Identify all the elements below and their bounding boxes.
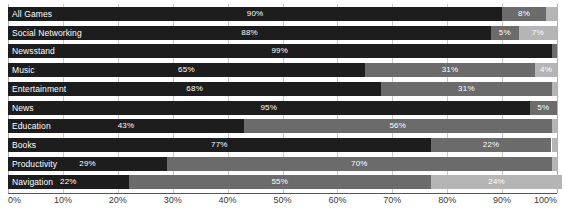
bar-segment: 68%Entertainment [8,82,381,96]
segment-value-label: 24% [488,178,505,186]
segment-value-label: 56% [389,122,406,130]
segment-value-label: 5% [537,104,549,112]
bar-segment: 4% [535,63,557,77]
category-label: News [12,103,34,112]
bar-row: 65%Music31%4% [8,63,557,77]
x-tick-label: 70% [383,196,401,205]
segment-value-label: 8% [518,10,530,18]
category-label: Music [12,66,35,75]
bar-track: 29%Productivity70% [8,157,557,171]
segment-value-label: 31% [442,66,459,74]
category-label: Newsstand [12,47,55,56]
bar-segment: 77%Books [8,138,431,152]
bar-track: 88%Social Networking5%7% [8,26,557,40]
bar-segment [546,7,557,21]
bar-row: 99%Newsstand [8,44,557,58]
bar-segment: 8% [502,7,546,21]
bar-track: 95%News5% [8,101,557,115]
bar-segment [552,44,557,58]
bar-segment [552,138,557,152]
x-tick-label: 20% [109,196,127,205]
bar-segment [552,82,557,96]
category-label: Navigation [12,178,53,187]
segment-value-label: 90% [247,10,264,18]
bar-track: 99%Newsstand [8,44,557,58]
bar-segment: 88%Social Networking [8,26,491,40]
segment-value-label: 55% [271,178,288,186]
bar-segment [552,119,557,133]
bar-track: 90%All Games8% [8,7,557,21]
bar-segment: 90%All Games [8,7,502,21]
bar-segment: 31% [365,63,535,77]
segment-value-label: 95% [260,104,277,112]
segment-value-label: 5% [499,29,511,37]
segment-value-label: 31% [458,85,475,93]
bar-track: 77%Books22% [8,138,557,152]
bar-row: 88%Social Networking5%7% [8,26,557,40]
segment-value-label: 99% [271,47,288,55]
category-label: Books [12,141,36,150]
gridline [557,4,558,193]
bar-row: 95%News5% [8,101,557,115]
bar-row: 90%All Games8% [8,7,557,21]
category-label: Entertainment [12,85,66,94]
bar-track: 43%Education56% [8,119,557,133]
bar-segment: 43%Education [8,119,244,133]
bar-row: 43%Education56% [8,119,557,133]
x-axis-tick-labels: 0%10%20%30%40%50%60%70%80%90%100% [8,196,557,218]
bar-segment: 5% [491,26,518,40]
bar-row: 22%Navigation55%24% [8,175,557,189]
bar-segment: 22% [431,138,552,152]
stacked-bar-chart: 90%All Games8%88%Social Networking5%7%99… [0,0,565,221]
bar-segment: 24% [431,175,563,189]
category-label: Education [12,122,51,131]
x-tick-label: 100% [534,196,557,205]
bar-segment: 99%Newsstand [8,44,552,58]
bar-segment: 7% [519,26,557,40]
category-label: Social Networking [12,28,82,37]
bar-row: 68%Entertainment31% [8,82,557,96]
segment-value-label: 22% [60,178,77,186]
bar-row: 77%Books22% [8,138,557,152]
segment-value-label: 4% [540,66,552,74]
x-tick-label: 0% [8,196,21,205]
segment-value-label: 88% [241,29,258,37]
segment-value-label: 43% [118,122,135,130]
bar-row: 29%Productivity70% [8,157,557,171]
bar-segment [552,157,557,171]
category-label: All Games [12,10,52,19]
segment-value-label: 77% [211,141,228,149]
x-tick-label: 50% [273,196,291,205]
bar-track: 68%Entertainment31% [8,82,557,96]
x-tick-label: 10% [54,196,72,205]
bar-segment: 65%Music [8,63,365,77]
x-tick-label: 40% [219,196,237,205]
segment-value-label: 29% [79,160,96,168]
x-tick-label: 60% [328,196,346,205]
x-tick-label: 30% [164,196,182,205]
bar-track: 22%Navigation55%24% [8,175,557,189]
bar-segment: 31% [381,82,551,96]
plot-area: 90%All Games8%88%Social Networking5%7%99… [8,4,557,193]
category-label: Productivity [12,159,57,168]
x-axis-line [8,193,557,194]
x-tick-label: 90% [493,196,511,205]
segment-value-label: 65% [178,66,195,74]
bar-segment: 5% [530,101,557,115]
bar-segment: 22%Navigation [8,175,129,189]
bar-segment: 56% [244,119,551,133]
bar-track: 65%Music31%4% [8,63,557,77]
bar-segment: 55% [129,175,431,189]
bar-segment: 70% [167,157,551,171]
segment-value-label: 22% [483,141,500,149]
bar-segment: 29%Productivity [8,157,167,171]
segment-value-label: 68% [186,85,203,93]
segment-value-label: 70% [351,160,368,168]
segment-value-label: 7% [532,29,544,37]
bar-segment: 95%News [8,101,530,115]
x-tick-label: 80% [438,196,456,205]
